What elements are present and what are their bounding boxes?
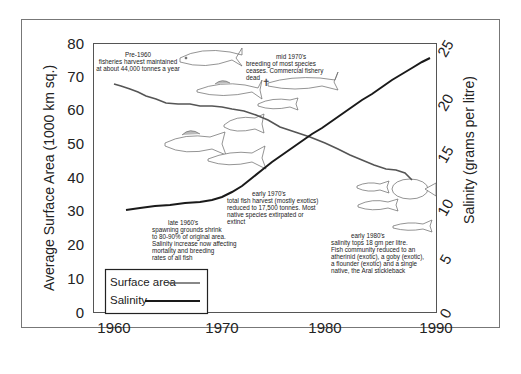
y-tick-80: 80 xyxy=(67,35,84,52)
legend-salinity-label: Salinity xyxy=(110,294,147,306)
left-axis-title: Average Surface Area (1000 km sq.) xyxy=(41,65,57,291)
note-early1970-line-5: extinct xyxy=(227,218,245,225)
dead-symbol-icon: ✝ xyxy=(262,77,270,88)
y2-tick-10: 10 xyxy=(434,196,457,219)
y-tick-20: 20 xyxy=(67,236,84,253)
note-mid1970-line-4: dead xyxy=(246,74,261,81)
legend-surface-label: Surface area xyxy=(110,276,176,288)
y-tick-10: 10 xyxy=(67,270,84,287)
note-pre1960-line-2: fisheries harvest maintained xyxy=(99,58,178,65)
note-pre1960-line-1: Pre-1960 xyxy=(125,51,151,58)
legend: Surface area Salinity xyxy=(106,270,208,314)
note-late1960-line-6: rates of all fish xyxy=(152,254,193,261)
note-early1970-line-3: reduced to 17,500 tonnes. Most xyxy=(227,204,316,211)
y2-tick-20: 20 xyxy=(434,91,457,114)
y-tick-0: 0 xyxy=(76,304,84,321)
y-tick-30: 30 xyxy=(67,202,84,219)
x-tick-1960: 1960 xyxy=(97,319,130,336)
y-tick-50: 50 xyxy=(67,135,84,152)
x-tick-1980: 1980 xyxy=(308,319,341,336)
y2-tick-25: 25 xyxy=(434,37,457,60)
y2-tick-15: 15 xyxy=(434,143,457,166)
note-pre1960-line-3: at about 44,000 tonnes a year xyxy=(96,65,180,73)
figure-canvas: 80 70 60 50 40 30 20 10 0 Average Surfac… xyxy=(0,0,521,374)
y-tick-70: 70 xyxy=(67,68,84,85)
note-early1980-line-6: native, the Aral stickleback xyxy=(331,267,406,274)
x-tick-1990: 1990 xyxy=(419,319,452,336)
x-tick-1970: 1970 xyxy=(205,319,238,336)
note-late1960-line-1: late 1960's xyxy=(168,219,198,226)
right-axis-title: Salinity (grams per litre) xyxy=(461,76,477,224)
note-mid1970-line-1: mid 1970's xyxy=(276,53,306,60)
right-axis: 25 20 15 10 5 0 xyxy=(434,37,457,321)
left-axis: 80 70 60 50 40 30 20 10 0 xyxy=(67,35,84,321)
y-tick-40: 40 xyxy=(67,169,84,186)
y2-tick-5: 5 xyxy=(436,251,455,267)
y-tick-60: 60 xyxy=(67,101,84,118)
